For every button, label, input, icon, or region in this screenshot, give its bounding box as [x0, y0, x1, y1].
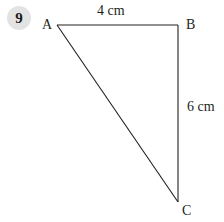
side-ab-length-label: 4 cm [97, 4, 125, 18]
side-ac [57, 25, 178, 202]
vertex-label-b: B [186, 18, 195, 32]
vertex-label-c: C [182, 204, 191, 218]
triangle-diagram: 9 A B C 4 cm 6 cm [0, 0, 224, 222]
vertex-label-a: A [42, 18, 52, 32]
side-bc-length-label: 6 cm [187, 100, 215, 114]
